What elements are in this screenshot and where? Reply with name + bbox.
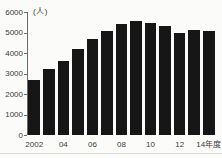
x-tick-label-2002: 2002 xyxy=(25,140,43,149)
bar-2004 xyxy=(58,61,70,135)
bar-chart-figure: (人) 6000500040003000200010000 2002040608… xyxy=(0,0,222,158)
y-tick-label-4000: 4000 xyxy=(0,49,23,58)
x-tick-label-14年度: 14年度 xyxy=(196,140,221,149)
x-tick-label-08: 08 xyxy=(117,140,126,149)
y-tick-label-2000: 2000 xyxy=(0,90,23,99)
bar-2006 xyxy=(87,39,99,135)
y-tick-mark xyxy=(24,135,27,136)
x-tick-label-04: 04 xyxy=(59,140,68,149)
bar-2012 xyxy=(174,33,186,136)
bar-2002 xyxy=(28,80,40,135)
bar-2007 xyxy=(101,31,113,135)
bar-2013 xyxy=(188,30,200,135)
y-tick-mark xyxy=(24,115,27,116)
bar-2008 xyxy=(116,24,128,135)
page-divider-line xyxy=(0,153,222,154)
y-tick-label-6000: 6000 xyxy=(0,8,23,17)
bar-2003 xyxy=(43,69,55,135)
bar-2010 xyxy=(145,23,157,135)
y-tick-mark xyxy=(24,33,27,34)
y-tick-label-1000: 1000 xyxy=(0,110,23,119)
y-tick-mark xyxy=(24,74,27,75)
bar-2009 xyxy=(130,21,142,135)
bar-2005 xyxy=(72,49,84,135)
y-tick-label-5000: 5000 xyxy=(0,28,23,37)
y-tick-label-3000: 3000 xyxy=(0,69,23,78)
x-tick-label-06: 06 xyxy=(88,140,97,149)
y-tick-mark xyxy=(24,12,27,13)
y-tick-mark xyxy=(24,53,27,54)
y-tick-mark xyxy=(24,94,27,95)
x-tick-label-12: 12 xyxy=(175,140,184,149)
bar-2011 xyxy=(159,26,171,135)
bar-2014 xyxy=(203,31,215,135)
x-tick-label-10: 10 xyxy=(146,140,155,149)
y-axis-unit-label: (人) xyxy=(33,7,48,16)
y-tick-label-0: 0 xyxy=(0,131,23,140)
